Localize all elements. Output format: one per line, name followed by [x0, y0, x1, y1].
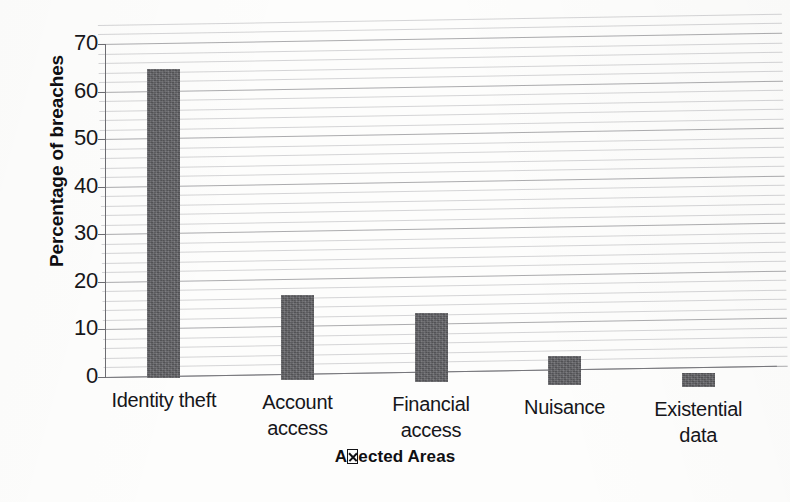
y-axis-tick-labels: 706050403020100: [54, 44, 98, 377]
y-axis-tick-label: 60: [54, 78, 98, 104]
y-axis-tick-label: 10: [54, 315, 98, 341]
x-axis-category-label: Financial access: [364, 391, 498, 443]
bar: [548, 356, 581, 385]
bars-layer: [105, 44, 773, 377]
y-axis-tick-label: 0: [54, 363, 98, 389]
bar: [147, 69, 180, 378]
x-axis-category-label: Account access: [231, 389, 365, 441]
y-axis-tick-label: 70: [54, 30, 98, 56]
x-axis-category-label: Existential data: [631, 396, 765, 448]
y-axis-tick-label: 40: [54, 173, 98, 199]
x-axis-title: Aected Areas: [0, 447, 790, 467]
y-axis-tick-label: 30: [54, 220, 98, 246]
x-axis-category-label: Nuisance: [498, 394, 632, 420]
missing-glyph-box-icon: [347, 449, 358, 464]
x-axis-category-labels: Identity theftAccount accessFinancial ac…: [105, 386, 773, 444]
y-axis-tick-mark: [98, 377, 106, 378]
y-axis-tick-label: 20: [54, 268, 98, 294]
x-axis-category-label: Identity theft: [97, 387, 231, 413]
bar: [415, 313, 448, 382]
bar: [682, 373, 715, 387]
bar: [281, 295, 314, 381]
bar-chart-figure: Percentage of breaches 706050403020100 I…: [0, 0, 790, 502]
y-axis-tick-label: 50: [54, 125, 98, 151]
